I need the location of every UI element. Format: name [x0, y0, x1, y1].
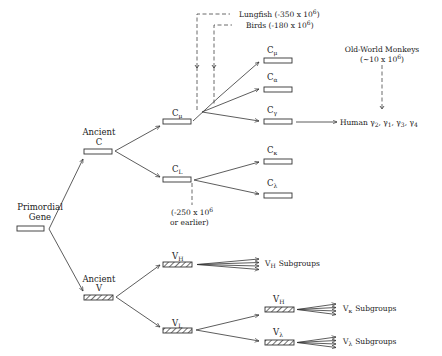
edge-to-c-gamma — [202, 112, 259, 121]
c-lambda-box — [264, 193, 292, 198]
birds-annotation: Birds (-180 x 106) — [246, 19, 314, 30]
c-l-box — [163, 177, 191, 182]
c-kappa-box — [264, 159, 292, 164]
ancient-c-box — [84, 149, 112, 154]
v-lambda-node: Vλ — [265, 327, 294, 345]
primordial-label-1: Primordial — [17, 202, 63, 212]
c-alpha-node: Cα — [264, 72, 292, 92]
ancient-c-label-2: C — [96, 137, 103, 147]
owm-annotation-2: (∼10 x 106) — [360, 53, 404, 64]
c-gamma-box — [264, 119, 292, 124]
birds-dashed-line — [214, 25, 232, 67]
c-mu-node: Cμ — [264, 45, 292, 63]
primordial-gene-node: Primordial Gene — [17, 202, 63, 231]
cl-time-annotation-2: or earlier) — [170, 218, 209, 227]
c-alpha-box — [264, 87, 292, 92]
ancient-c-node: Ancient C — [81, 127, 116, 154]
lungfish-annotation: Lungfish (-350 x 106) — [239, 8, 320, 19]
v-h-subgroup-fan — [197, 259, 259, 270]
v-kappa-box — [265, 307, 294, 312]
c-mu-label: Cμ — [267, 45, 278, 57]
edge-root-to-ancient-v — [49, 229, 83, 291]
human-gamma-label: Human γ2, γ1, γ3, γ4 — [340, 118, 418, 128]
c-mu-ancestor-label: Cμ — [172, 108, 183, 120]
edge-ancient-c-to-c-mu — [115, 126, 160, 151]
v-lambda-box — [265, 340, 294, 345]
v-h-subgroups-label: VHSubgroups — [264, 259, 320, 269]
v-kappa-node: VH — [265, 294, 294, 312]
c-l-node: CL — [163, 164, 191, 182]
c-mu-ancestor-node: Cμ — [163, 108, 191, 124]
v-h-node: VH — [163, 251, 192, 267]
v-h-label: VH — [171, 251, 183, 262]
edge-root-to-ancient-c — [49, 159, 83, 229]
c-lambda-node: Cλ — [264, 178, 292, 198]
v-lambda-node-label: Vλ — [272, 327, 283, 338]
primordial-label-2: Gene — [29, 212, 51, 222]
c-kappa-label: Cκ — [267, 145, 278, 156]
c-gamma-label: Cγ — [267, 105, 278, 117]
edge-v-l-to-v-kappa — [196, 315, 259, 330]
v-lambda-subgroups-label: VλSubgroups — [342, 337, 397, 347]
c-mu-box — [264, 58, 292, 63]
ancient-v-box — [84, 295, 113, 300]
edge-to-c-lambda — [194, 180, 259, 194]
c-kappa-node: Cκ — [264, 145, 292, 164]
ancient-c-label-1: Ancient — [81, 127, 116, 137]
edge-to-c-alpha — [202, 89, 259, 112]
c-gamma-node: Cγ — [264, 105, 292, 124]
cl-time-annotation-1: (-250 x 106 — [171, 206, 213, 217]
v-kappa-node-label: VH — [272, 294, 284, 305]
edge-ancient-v-to-v-h — [116, 265, 160, 297]
v-l-label: VL — [171, 318, 182, 329]
v-h-box — [163, 262, 192, 267]
c-alpha-label: Cα — [267, 72, 278, 83]
v-kappa-subgroups-label: VκSubgroups — [342, 304, 396, 314]
v-lambda-subgroup-fan — [297, 337, 336, 348]
v-kappa-subgroup-fan — [297, 304, 336, 315]
edge-v-l-to-v-lambda — [196, 330, 259, 341]
edge-to-c-kappa — [194, 162, 259, 180]
primordial-gene-box — [17, 226, 44, 231]
edge-ancient-v-to-v-l — [116, 297, 160, 327]
edge-ancient-c-to-c-l — [115, 151, 160, 177]
c-mu-ancestor-box — [163, 119, 191, 124]
ancient-v-label-2: V — [95, 283, 103, 293]
lungfish-dashed-line — [197, 14, 230, 67]
immunoglobulin-gene-evolution-diagram: Primordial Gene Ancient C Cμ CL Lungfish… — [0, 0, 442, 356]
v-l-node: VL — [163, 318, 192, 333]
v-l-box — [163, 328, 192, 333]
c-lambda-label: Cλ — [267, 178, 278, 189]
owm-annotation-1: Old-World Monkeys — [345, 45, 420, 54]
c-l-label: CL — [172, 164, 183, 175]
ancient-v-node: Ancient V — [81, 274, 116, 300]
